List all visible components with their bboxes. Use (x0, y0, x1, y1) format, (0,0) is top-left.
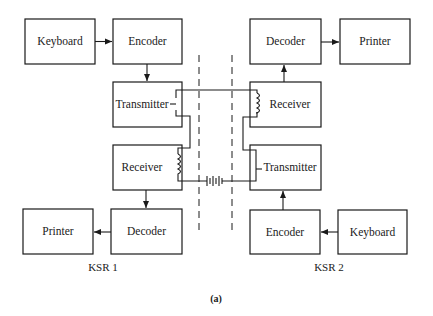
ksr2-receiver-block: Receiver (250, 82, 321, 127)
ksr-link-diagram: Keyboard Encoder Transmitter Receiver Pr… (0, 0, 433, 316)
ksr1-printer-block: Printer (23, 209, 93, 254)
ksr1-encoder-block: Encoder (113, 19, 182, 64)
ksr1-station-label: KSR 1 (88, 261, 118, 273)
ksr2-transmitter-label: Transmitter (263, 161, 316, 173)
ksr1-receiver-label: Receiver (122, 161, 163, 173)
ksr1-keyboard-label: Keyboard (37, 35, 83, 48)
ksr1-encoder-label: Encoder (128, 35, 166, 47)
ksr2-printer-label: Printer (359, 35, 390, 47)
ksr2-keyboard-block: Keyboard (338, 210, 407, 254)
ksr1-keyboard-block: Keyboard (25, 19, 95, 64)
ksr2-printer-block: Printer (340, 19, 410, 64)
ksr1-printer-label: Printer (42, 225, 73, 237)
ksr2-station-label: KSR 2 (314, 261, 344, 273)
ksr2-receiver-label: Receiver (270, 98, 311, 110)
battery-icon (205, 176, 224, 186)
ksr2-transmitter-block: Transmitter (250, 145, 321, 190)
ksr2-encoder-block: Encoder (250, 210, 320, 254)
ksr2-encoder-label: Encoder (266, 226, 304, 238)
ksr2-decoder-label: Decoder (266, 35, 305, 47)
ksr1-decoder-block: Decoder (111, 209, 182, 254)
signal-loop-wiring (176, 90, 257, 181)
ksr1-decoder-label: Decoder (127, 225, 166, 237)
ksr1-receiver-block: Receiver (113, 145, 182, 190)
figure-caption: (a) (210, 293, 222, 305)
ksr2-keyboard-label: Keyboard (350, 226, 396, 239)
ksr1-transmitter-label: Transmitter (115, 98, 168, 110)
ksr2-decoder-block: Decoder (250, 19, 321, 64)
